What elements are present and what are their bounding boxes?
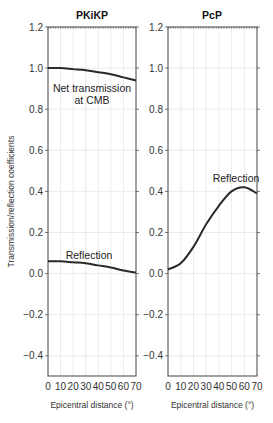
x-tick-label: 70 xyxy=(130,381,142,392)
curve-annotation: Reflection xyxy=(213,172,260,184)
curve-annotation: Net transmission xyxy=(53,82,131,94)
y-tick-label: −0.2 xyxy=(143,309,163,320)
plot-frame xyxy=(168,27,257,376)
x-axis-label: Epicentral distance (°) xyxy=(50,400,133,410)
series-line xyxy=(168,187,257,269)
x-tick-label: 40 xyxy=(93,381,105,392)
x-tick-label: 40 xyxy=(213,381,225,392)
y-tick-label: 0.8 xyxy=(29,104,43,115)
x-tick-label: 0 xyxy=(165,381,171,392)
y-tick-label: 0.6 xyxy=(149,145,163,156)
y-tick-label: 1.2 xyxy=(149,22,163,33)
x-tick-label: 10 xyxy=(175,381,187,392)
curve-annotation: at CMB xyxy=(74,94,109,106)
y-tick-label: 0.0 xyxy=(29,268,43,279)
x-tick-label: 50 xyxy=(105,381,117,392)
y-tick-label: 1.0 xyxy=(149,63,163,74)
x-tick-label: 60 xyxy=(239,381,251,392)
x-tick-label: 60 xyxy=(118,381,130,392)
y-tick-label: 1.2 xyxy=(29,22,43,33)
chart-panel-pcp: 1.21.00.80.60.40.20.0−0.2−0.401020304050… xyxy=(143,9,263,410)
x-tick-label: 20 xyxy=(68,381,80,392)
y-tick-label: −0.4 xyxy=(143,350,163,361)
x-tick-label: 70 xyxy=(251,381,263,392)
series-line xyxy=(48,68,136,80)
y-tick-label: 0.8 xyxy=(149,104,163,115)
x-tick-label: 50 xyxy=(226,381,238,392)
y-tick-label: −0.4 xyxy=(23,350,43,361)
y-tick-label: 0.0 xyxy=(149,268,163,279)
y-tick-label: 0.6 xyxy=(29,145,43,156)
y-tick-label: 1.0 xyxy=(29,63,43,74)
x-axis-label: Epicentral distance (°) xyxy=(171,400,254,410)
curve-annotation: Reflection xyxy=(66,249,113,261)
chart-title: PKiKP xyxy=(76,9,108,21)
chart-title: PcP xyxy=(202,9,222,21)
x-tick-label: 30 xyxy=(201,381,213,392)
x-tick-label: 10 xyxy=(55,381,67,392)
y-axis-label: Transmission/reflection coefficients xyxy=(6,136,16,268)
x-tick-label: 20 xyxy=(188,381,200,392)
x-tick-label: 30 xyxy=(80,381,92,392)
y-tick-label: 0.4 xyxy=(29,186,43,197)
chart-figure: 1.21.00.80.60.40.20.0−0.2−0.401020304050… xyxy=(0,0,273,423)
x-tick-label: 0 xyxy=(45,381,51,392)
y-tick-label: −0.2 xyxy=(23,309,43,320)
y-tick-label: 0.4 xyxy=(149,186,163,197)
chart-panel-pkikp: 1.21.00.80.60.40.20.0−0.2−0.401020304050… xyxy=(6,9,142,410)
plot-frame xyxy=(48,27,136,376)
y-tick-label: 0.2 xyxy=(149,227,163,238)
y-tick-label: 0.2 xyxy=(29,227,43,238)
series-line xyxy=(48,261,136,272)
